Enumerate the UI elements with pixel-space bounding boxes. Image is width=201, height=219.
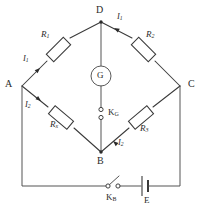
switch-b-terminal-right[interactable] (116, 184, 120, 188)
resistor-r1 (46, 37, 70, 61)
resistor-label-rx-sub: x (56, 123, 59, 129)
wire-a-to-switch-b (22, 86, 109, 186)
resistor-label-r2: R2 (146, 30, 154, 40)
wheatstone-bridge-figure: A B C D R1 R2 Rx R3 G KG KB E I1 I1 I2 I… (0, 0, 201, 219)
galvanometer-label: G (97, 71, 104, 80)
node-label-c: C (188, 79, 195, 89)
switch-b-lever[interactable] (110, 176, 120, 185)
switch-label-kb-sub: B (113, 196, 117, 202)
resistor-label-r3: R3 (140, 124, 148, 134)
switch-label-kg: KG (108, 108, 119, 118)
wire-r1-to-d (70, 22, 101, 38)
switch-label-kb: KB (106, 193, 116, 203)
current-label-i2-bc: I2 (118, 138, 124, 148)
node-label-a: A (5, 79, 12, 89)
wire-r2-to-c (155, 61, 180, 86)
resistor-label-rx: Rx (50, 120, 58, 130)
resistor-label-r3-sub: 3 (146, 127, 149, 133)
current-label-i2-bc-sub: 2 (121, 141, 124, 147)
current-label-i1-ad-sub: 1 (26, 57, 29, 63)
switch-g-terminal-bottom[interactable] (99, 115, 103, 119)
node-dot-b (99, 150, 102, 153)
wire-battery-to-c (148, 86, 180, 186)
resistor-r2 (131, 37, 155, 61)
switch-label-kg-sub: G (115, 111, 119, 117)
branch-galvanometer (91, 22, 111, 152)
switch-g-terminal-top[interactable] (99, 107, 103, 111)
wire-a-to-r1 (22, 61, 47, 86)
current-label-i1-dc: I1 (117, 12, 123, 22)
resistor-label-r1: R1 (41, 30, 49, 40)
resistor-label-r1-sub: 1 (47, 33, 50, 39)
wire-r3-to-c (153, 86, 180, 107)
node-label-d: D (96, 5, 103, 15)
battery-label-e: E (144, 196, 150, 205)
current-label-i2-ab: I2 (25, 100, 31, 110)
branch-a-d (22, 22, 101, 86)
branch-d-c (101, 22, 180, 86)
wire-rx-to-b (74, 128, 101, 152)
wire-b-to-r3 (101, 128, 129, 152)
current-label-i1-ad: I1 (23, 54, 29, 64)
resistor-label-r2-sub: 2 (152, 33, 155, 39)
branch-b-c (101, 86, 180, 152)
current-label-i1-dc-sub: 1 (120, 15, 123, 21)
current-label-i2-ab-sub: 2 (28, 103, 31, 109)
node-label-b: B (97, 156, 104, 166)
branch-a-b (22, 86, 101, 152)
node-dot-d (99, 20, 102, 23)
